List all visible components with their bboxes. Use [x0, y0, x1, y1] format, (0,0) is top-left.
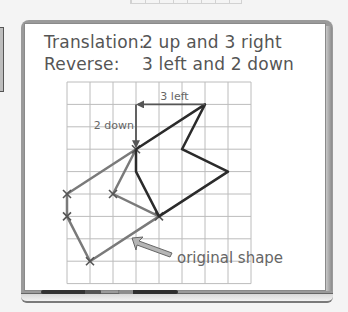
- callout-arrow-icon: [132, 237, 172, 257]
- move-down-label: 2 down: [94, 119, 134, 132]
- callout-label: original shape: [177, 249, 283, 267]
- translation-diagram: 3 left2 down original shape: [0, 0, 348, 312]
- callout: original shape: [132, 237, 283, 267]
- marker-pen-dark: [41, 290, 101, 294]
- marker-cap: [85, 290, 101, 294]
- move-left-label: 3 left: [160, 90, 189, 103]
- marker-pen-gray-cap: [118, 290, 178, 294]
- whiteboard-tray: [21, 293, 333, 303]
- marker-cap: [118, 290, 133, 294]
